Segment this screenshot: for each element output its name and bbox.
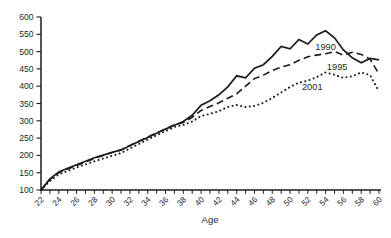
y-tick-label: 500: [19, 47, 34, 57]
series-line-1995: [41, 52, 379, 190]
x-tick-label: 40: [193, 195, 206, 208]
y-tick-label: 600: [19, 12, 34, 22]
x-tick-label: 32: [122, 195, 135, 208]
series-line-2001: [41, 72, 379, 190]
y-tick-label: 350: [19, 99, 34, 109]
x-tick-label: 48: [264, 195, 277, 208]
x-tick-label: 42: [211, 195, 224, 208]
x-tick-label: 44: [229, 195, 242, 208]
series-label-1995: 1995: [327, 62, 348, 72]
x-tick-label: 38: [175, 195, 188, 208]
y-tick-label: 150: [19, 168, 34, 178]
line-chart-figure: 1001502002503003504004505005506002224262…: [0, 0, 391, 238]
x-tick-label: 54: [318, 195, 331, 208]
y-tick-label: 300: [19, 116, 34, 126]
x-tick-label: 30: [104, 195, 117, 208]
series-line-1990: [41, 31, 379, 190]
x-tick-label: 58: [353, 195, 366, 208]
y-tick-label: 100: [19, 185, 34, 195]
x-tick-label: 36: [158, 195, 171, 208]
y-tick-label: 200: [19, 150, 34, 160]
y-tick-label: 450: [19, 64, 34, 74]
x-tick-label: 46: [247, 195, 260, 208]
series-label-2001: 2001: [302, 82, 323, 92]
y-tick-label: 550: [19, 29, 34, 39]
x-axis: 2224262830323436384042444648505254565860…: [33, 190, 384, 225]
x-tick-label: 52: [300, 195, 313, 208]
x-tick-label: 22: [33, 195, 46, 208]
chart-canvas: 1001502002503003504004505005506002224262…: [0, 0, 391, 238]
y-tick-label: 400: [19, 81, 34, 91]
y-axis: 100150200250300350400450500550600: [19, 12, 41, 195]
x-tick-label: 50: [282, 195, 295, 208]
x-tick-label: 60: [371, 195, 384, 208]
series-label-1990: 1990: [315, 42, 336, 52]
x-tick-label: 24: [51, 195, 64, 208]
x-tick-label: 26: [69, 195, 82, 208]
x-tick-label: 34: [140, 195, 153, 208]
y-tick-label: 250: [19, 133, 34, 143]
x-axis-title: Age: [202, 214, 219, 225]
x-tick-label: 56: [336, 195, 349, 208]
x-tick-label: 28: [86, 195, 99, 208]
